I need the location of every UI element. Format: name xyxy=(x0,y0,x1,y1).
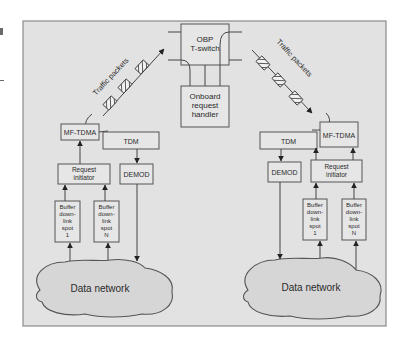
obp-t-switch-label-2: T-switch xyxy=(190,44,219,53)
right-buffer1-line3: link xyxy=(310,216,320,222)
right-data-network-label: Data network xyxy=(282,282,342,293)
right-bufferN-line5: N xyxy=(352,230,356,236)
left-bufferN-line5: N xyxy=(104,232,108,238)
right-buffer-spot-1-box: Buffer down- link spot 1 xyxy=(303,199,327,240)
right-buffer1-line4: spot xyxy=(309,223,321,229)
left-tdm-box: TDM xyxy=(103,132,159,149)
handler-label-1: Onboard xyxy=(189,92,220,101)
left-bufferN-line4: spot xyxy=(101,225,113,231)
right-tdm-box: TDM xyxy=(260,132,317,149)
left-mftdma-label: MF-TDMA xyxy=(64,129,97,136)
right-bufferN-line1: Buffer xyxy=(346,202,362,208)
obp-t-switch-label-1: OBP xyxy=(197,35,214,44)
left-bufferN-line3: link xyxy=(102,218,112,224)
right-bufferN-line3: link xyxy=(349,216,359,222)
right-buffer1-line1: Buffer xyxy=(307,202,323,208)
left-request-label-1: Request xyxy=(72,166,96,174)
right-tdm-label: TDM xyxy=(281,138,296,145)
left-request-initiator-box: Request initiator xyxy=(58,164,110,184)
left-request-label-2: initiator xyxy=(74,174,96,181)
obp-system-diagram: OBP T-switch Onboard request handler Tra… xyxy=(0,0,407,343)
left-demod-label: DEMOD xyxy=(123,171,149,178)
right-mftdma-label: MF-TDMA xyxy=(323,132,356,139)
left-buffer1-line3: link xyxy=(63,218,73,224)
left-bufferN-line1: Buffer xyxy=(99,204,115,210)
left-buffer-spot-n-box: Buffer down- link spot N xyxy=(94,201,119,242)
right-demod-box: DEMOD xyxy=(268,162,301,182)
right-request-label-1: Request xyxy=(324,163,348,171)
onboard-request-handler-box: Onboard request handler xyxy=(181,86,229,127)
right-bufferN-line2: down- xyxy=(346,209,362,215)
left-bufferN-line2: down- xyxy=(98,211,114,217)
right-request-label-2: initiator xyxy=(326,171,348,178)
left-buffer-spot-1-box: Buffer down- link spot 1 xyxy=(55,201,80,242)
left-data-network-label: Data network xyxy=(71,283,131,294)
left-buffer1-line2: down- xyxy=(59,211,75,217)
right-buffer1-line2: down- xyxy=(307,209,323,215)
right-demod-label: DEMOD xyxy=(271,169,297,176)
left-tdm-label: TDM xyxy=(123,138,138,145)
left-demod-box: DEMOD xyxy=(120,164,153,184)
right-bufferN-line4: spot xyxy=(348,223,360,229)
left-buffer1-line4: spot xyxy=(62,225,74,231)
handler-label-3: handler xyxy=(192,110,219,119)
right-buffer-spot-n-box: Buffer down- link spot N xyxy=(342,199,366,240)
handler-label-2: request xyxy=(192,101,219,110)
right-request-initiator-box: Request initiator xyxy=(311,160,362,182)
left-mftdma-box: MF-TDMA xyxy=(61,124,99,140)
obp-t-switch-box: OBP T-switch xyxy=(181,24,229,65)
left-buffer1-line1: Buffer xyxy=(60,204,76,210)
right-mftdma-box: MF-TDMA xyxy=(320,122,358,147)
